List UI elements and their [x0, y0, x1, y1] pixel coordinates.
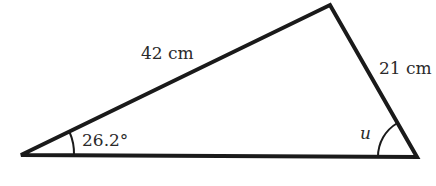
angle-label-26-2: 26.2°: [82, 132, 128, 149]
triangle-shape: [21, 5, 417, 157]
triangle-figure: [0, 0, 436, 186]
triangle-diagram: 42 cm 21 cm 26.2° u: [0, 0, 436, 186]
angle-arc-right: [378, 123, 398, 157]
angle-arc-left: [70, 132, 75, 155]
side-label-21cm: 21 cm: [379, 60, 432, 77]
angle-label-u: u: [360, 125, 371, 142]
side-label-42cm: 42 cm: [141, 45, 194, 62]
